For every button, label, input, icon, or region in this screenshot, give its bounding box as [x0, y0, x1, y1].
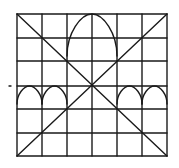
small-arch-3 — [117, 86, 142, 104]
arch-grid-diagram — [0, 0, 179, 168]
small-arch-2 — [42, 86, 67, 104]
small-arch-4 — [142, 86, 167, 104]
small-arch-1 — [17, 86, 42, 104]
